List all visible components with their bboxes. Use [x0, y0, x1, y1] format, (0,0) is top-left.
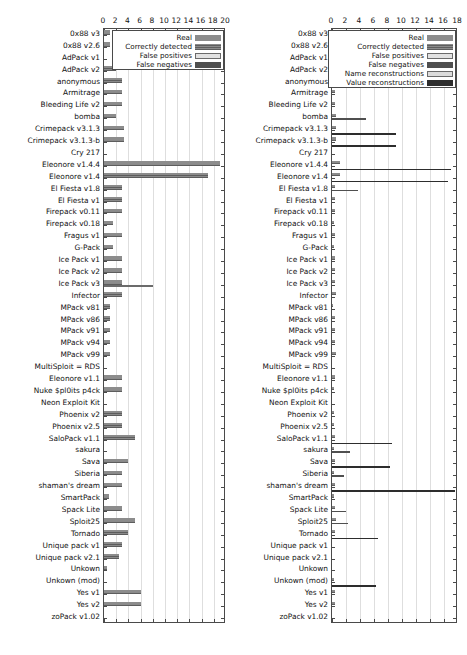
- bar: [104, 285, 153, 287]
- gridline: [202, 29, 203, 622]
- bar: [104, 413, 122, 415]
- y-axis-tick: [453, 428, 456, 429]
- y-axis-category-label: Eleonore v1.1: [240, 375, 328, 382]
- gridline: [416, 29, 417, 622]
- chart-panel-right: 0246810121416180x88 v30x88 v2.6AdPack v1…: [228, 0, 467, 655]
- x-tick-label: 0: [329, 16, 334, 25]
- gridline: [189, 29, 190, 622]
- gridline: [153, 29, 154, 622]
- legend-item: Value reconstructions: [331, 78, 453, 87]
- legend-item: False positives: [115, 51, 221, 60]
- bar: [104, 461, 128, 463]
- bar: [332, 466, 390, 468]
- y-axis-tick: [332, 559, 335, 560]
- bar: [332, 484, 335, 486]
- y-axis-tick: [221, 202, 224, 203]
- legend-label: False negatives: [136, 61, 192, 68]
- y-axis-tick: [221, 559, 224, 560]
- y-axis-tick: [453, 416, 456, 417]
- y-axis-tick: [221, 142, 224, 143]
- y-axis-category-label: G-Pack: [240, 244, 328, 251]
- gridline: [214, 29, 215, 622]
- axis-tick: [177, 619, 178, 622]
- bar: [104, 223, 113, 225]
- y-axis-category-label: Yes v2: [240, 601, 328, 608]
- bar: [332, 118, 366, 120]
- y-axis-category-label: Firepack v0.18: [12, 220, 100, 227]
- bar: [104, 306, 110, 308]
- y-axis-tick: [332, 499, 335, 500]
- bar: [332, 329, 335, 331]
- y-axis-tick: [453, 570, 456, 571]
- x-tick-label: 0: [101, 16, 106, 25]
- y-axis-category-label: Phoenix v2: [12, 411, 100, 418]
- y-axis-tick: [221, 463, 224, 464]
- bar: [332, 538, 378, 540]
- bar: [332, 579, 334, 581]
- y-axis-tick: [104, 190, 107, 191]
- axis-tick: [332, 619, 333, 622]
- y-axis-tick: [221, 380, 224, 381]
- y-axis-tick: [104, 392, 107, 393]
- y-axis-tick: [104, 83, 107, 84]
- y-axis-tick: [332, 463, 335, 464]
- y-axis-tick: [104, 428, 107, 429]
- y-axis-tick: [104, 202, 107, 203]
- y-axis-tick: [453, 582, 456, 583]
- bar: [332, 451, 350, 453]
- y-axis-tick: [104, 475, 107, 476]
- bar: [332, 169, 451, 171]
- bar: [104, 354, 110, 356]
- y-axis-category-label: bomba: [240, 113, 328, 120]
- axis-tick: [374, 619, 375, 622]
- bar: [332, 591, 335, 593]
- y-axis-tick: [104, 309, 107, 310]
- y-axis-tick: [332, 94, 335, 95]
- y-axis-tick: [221, 213, 224, 214]
- y-axis-category-label: MPack v99: [12, 351, 100, 358]
- x-tick-label: 18: [452, 16, 462, 25]
- gridline: [402, 29, 403, 622]
- bar: [104, 199, 122, 201]
- y-axis-tick: [221, 535, 224, 536]
- y-axis-category-label: sakura: [240, 446, 328, 453]
- y-axis-category-label: El Fiesta v1: [240, 197, 328, 204]
- y-axis-tick: [453, 344, 456, 345]
- y-axis-tick: [221, 94, 224, 95]
- bar: [104, 235, 122, 237]
- y-axis-tick: [221, 71, 224, 72]
- bar: [332, 133, 396, 135]
- x-tick-label: 8: [385, 16, 390, 25]
- y-axis-tick: [104, 118, 107, 119]
- y-axis-tick: [453, 475, 456, 476]
- y-axis-category-label: Bleeding Life v2: [12, 101, 100, 108]
- y-axis-tick: [221, 154, 224, 155]
- y-axis-category-label: Firepack v0.18: [240, 220, 328, 227]
- bar: [332, 163, 340, 165]
- plot-area: [103, 28, 225, 623]
- axis-tick: [444, 619, 445, 622]
- legend-item: Real: [115, 33, 221, 42]
- y-axis-tick: [453, 106, 456, 107]
- y-axis-tick: [221, 106, 224, 107]
- bar: [104, 509, 122, 511]
- y-axis-tick: [332, 606, 335, 607]
- x-tick-label: 12: [410, 16, 420, 25]
- legend-label: Real: [177, 34, 193, 41]
- axis-tick: [430, 619, 431, 622]
- bar: [332, 115, 336, 117]
- bar: [104, 104, 122, 106]
- y-axis-tick: [104, 213, 107, 214]
- y-axis-category-label: MultiSploit = RDS: [12, 363, 100, 370]
- y-axis-tick: [221, 582, 224, 583]
- bar: [104, 378, 122, 380]
- bar: [332, 187, 335, 189]
- legend-swatch: [427, 80, 453, 86]
- y-axis-category-label: MPack v94: [240, 339, 328, 346]
- bar: [332, 127, 336, 129]
- y-axis-tick: [453, 499, 456, 500]
- y-axis-tick: [221, 225, 224, 226]
- y-axis-category-label: Firepack v0.11: [12, 208, 100, 215]
- bar: [332, 389, 334, 391]
- y-axis-tick: [453, 392, 456, 393]
